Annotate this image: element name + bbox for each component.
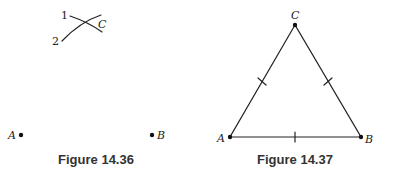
point-a-label: A xyxy=(7,129,16,142)
figures-canvas: 1 2 C A B Figure 14.36 C A B Figure 14.3… xyxy=(0,0,393,175)
point-b xyxy=(150,133,154,137)
vertex-c-label: C xyxy=(291,9,300,22)
figure-14-37: C A B Figure 14.37 xyxy=(216,9,373,167)
vertex-c xyxy=(293,23,297,27)
intersection-c-label: C xyxy=(98,18,107,31)
vertex-b xyxy=(359,135,363,139)
arc-1-label: 1 xyxy=(61,9,68,22)
arc-2-label: 2 xyxy=(52,35,59,48)
vertex-a xyxy=(228,135,232,139)
tick-mark-ac xyxy=(258,78,266,85)
vertex-b-label: B xyxy=(364,133,373,146)
tick-mark-bc xyxy=(324,78,332,85)
figure-caption: Figure 14.37 xyxy=(257,152,333,167)
point-a xyxy=(19,133,23,137)
vertex-a-label: A xyxy=(216,132,225,145)
triangle-abc xyxy=(230,25,361,137)
figure-14-36: 1 2 C A B Figure 14.36 xyxy=(7,9,165,167)
point-b-label: B xyxy=(156,129,165,142)
figure-caption: Figure 14.36 xyxy=(58,152,134,167)
